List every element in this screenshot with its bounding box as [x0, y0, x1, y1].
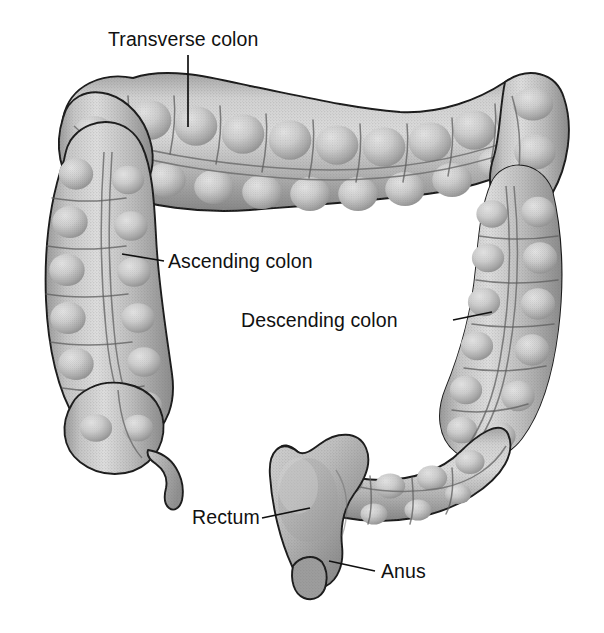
- label-ascending-colon: Ascending colon: [168, 250, 313, 272]
- cecum: [64, 383, 163, 474]
- anatomy-diagram: Transverse colon Ascending colon Descend…: [0, 0, 604, 633]
- label-rectum: Rectum: [192, 506, 260, 528]
- vermiform-appendix: [147, 450, 182, 510]
- descending-colon-body: [440, 166, 561, 460]
- large-intestine-illustration: Transverse colon Ascending colon Descend…: [0, 0, 604, 633]
- anal-canal: [292, 557, 327, 599]
- label-transverse-colon: Transverse colon: [108, 28, 258, 50]
- label-descending-colon: Descending colon: [241, 309, 398, 331]
- label-anus: Anus: [381, 560, 426, 582]
